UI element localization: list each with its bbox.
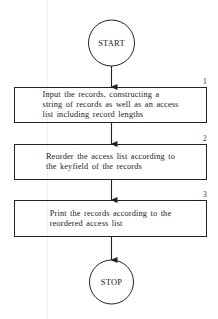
step-1-box: Input the records, constructing a string…: [14, 88, 207, 122]
step-3-text: Print the records according to the reord…: [50, 209, 171, 229]
step-1-text: Input the records, constructing a string…: [43, 90, 179, 120]
step-2-box: Reorder the access list according to the…: [14, 145, 207, 179]
step-2-line-1: Reorder the access list according to: [46, 152, 175, 162]
step-3-number: 3: [203, 191, 207, 199]
step-2-number: 2: [203, 135, 207, 143]
step-2-line-2: the keyfield of the records: [46, 162, 175, 172]
step-3-line-1: Print the records according to the: [50, 209, 171, 219]
step-1-line-3: list including record lengths: [43, 110, 179, 120]
step-1-line-2: string of records as well as an access: [43, 100, 179, 110]
step-1-number: 1: [203, 78, 207, 86]
start-terminal-label: START: [87, 38, 137, 48]
step-1-line-1: Input the records, constructing a: [43, 90, 179, 100]
step-3-box: Print the records according to the reord…: [14, 201, 207, 236]
step-3-line-2: reordered access list: [50, 219, 171, 229]
stop-terminal-label: STOP: [87, 277, 137, 287]
step-2-text: Reorder the access list according to the…: [46, 152, 175, 172]
